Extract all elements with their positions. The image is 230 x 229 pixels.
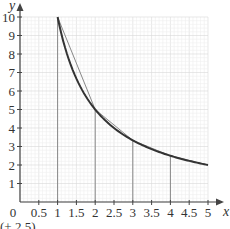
- x-axis-label: x: [222, 204, 230, 219]
- svg-text:4: 4: [167, 205, 174, 220]
- svg-text:0.5: 0.5: [31, 205, 47, 220]
- caption-partial: (+ 2.5): [0, 219, 36, 229]
- chart: 00.511.522.533.544.55 12345678910 x y: [0, 0, 230, 229]
- y-axis-arrow-icon: [17, 3, 24, 11]
- svg-text:7: 7: [9, 65, 16, 80]
- svg-text:5: 5: [205, 205, 212, 220]
- svg-text:6: 6: [9, 84, 16, 99]
- svg-text:1.5: 1.5: [68, 205, 84, 220]
- svg-text:2.5: 2.5: [106, 205, 122, 220]
- svg-text:9: 9: [9, 28, 16, 43]
- svg-text:2: 2: [9, 158, 16, 173]
- svg-text:1: 1: [54, 205, 61, 220]
- svg-text:4.5: 4.5: [181, 205, 197, 220]
- y-axis-label: y: [7, 0, 16, 13]
- svg-text:3.5: 3.5: [143, 205, 159, 220]
- y-tick-labels: 12345678910: [2, 10, 22, 192]
- grid: [20, 17, 208, 202]
- svg-text:4: 4: [9, 121, 16, 136]
- svg-text:8: 8: [9, 47, 16, 62]
- svg-text:3: 3: [130, 205, 137, 220]
- x-tick-labels: 00.511.522.533.544.55: [10, 200, 212, 220]
- svg-text:3: 3: [9, 139, 16, 154]
- svg-text:5: 5: [9, 102, 16, 117]
- svg-text:0: 0: [10, 205, 17, 220]
- svg-text:2: 2: [92, 205, 99, 220]
- svg-text:1: 1: [9, 176, 16, 191]
